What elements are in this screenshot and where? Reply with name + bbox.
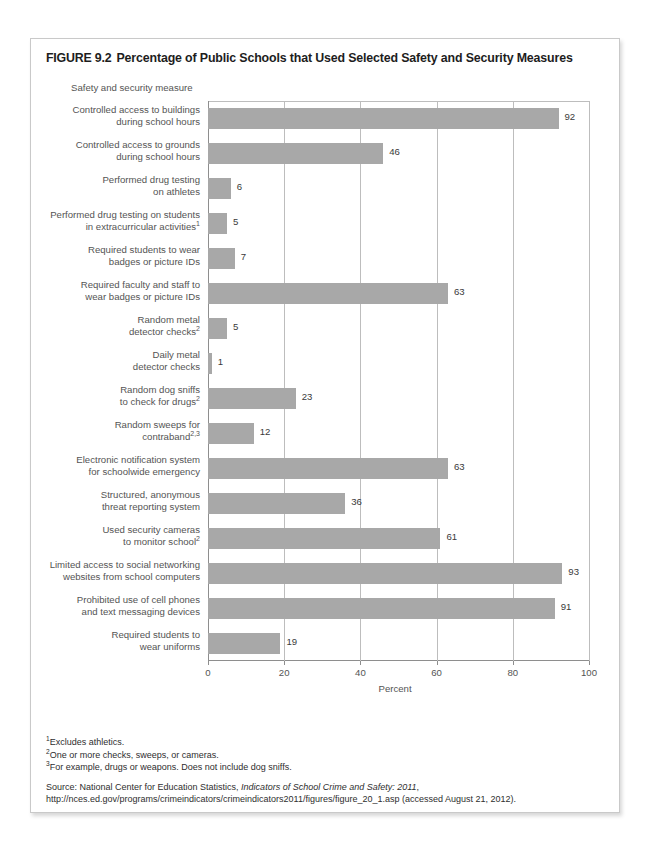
- bar: [208, 213, 227, 234]
- x-tick-label-20: 20: [279, 667, 290, 678]
- bar-value-label: 12: [260, 426, 271, 437]
- category-label-line2-text: badges or picture IDs: [109, 256, 200, 267]
- category-label-line2: to monitor school2: [0, 536, 200, 548]
- category-label-line2-text: for schoolwide emergency: [89, 466, 200, 477]
- chart-row: Required students to wearbadges or pictu…: [208, 241, 589, 276]
- bar-value-label: 23: [302, 391, 313, 402]
- category-label: Electronic notification systemfor school…: [0, 454, 200, 477]
- bar-value-label: 5: [233, 216, 238, 227]
- category-label: Used security camerasto monitor school2: [0, 524, 200, 547]
- x-tick-60: [437, 661, 438, 665]
- category-label-line2: for schoolwide emergency: [0, 466, 200, 478]
- bar: [208, 633, 280, 654]
- footnotes-block: 1Excludes athletics.2One or more checks,…: [46, 736, 606, 806]
- bar-value-label: 92: [565, 111, 576, 122]
- category-label-line2: websites from school computers: [0, 571, 200, 583]
- x-tick-label-40: 40: [355, 667, 366, 678]
- bar: [208, 388, 296, 409]
- chart-row: Required faculty and staff towear badges…: [208, 276, 589, 311]
- category-label-line2: detector checks: [0, 361, 200, 373]
- source-note: Source: National Center for Education St…: [46, 781, 606, 806]
- category-label-line1: Required faculty and staff to: [81, 279, 200, 290]
- footnote-marker: 2,3: [190, 429, 200, 436]
- category-label-line2-text: during school hours: [116, 116, 200, 127]
- bar-value-label: 91: [561, 601, 572, 612]
- chart-row: Controlled access to groundsduring schoo…: [208, 136, 589, 171]
- bar-value-label: 36: [351, 496, 362, 507]
- category-label: Limited access to social networkingwebsi…: [0, 559, 200, 582]
- footnote-text: Excludes athletics.: [50, 737, 125, 747]
- category-label-line1: Electronic notification system: [76, 454, 200, 465]
- category-label-line2-text: detector checks: [129, 326, 196, 337]
- bar-value-label: 7: [241, 251, 246, 262]
- category-label-line2: wear badges or picture IDs: [0, 291, 200, 303]
- category-label-line1: Required students to wear: [88, 244, 200, 255]
- category-label: Required students to wearbadges or pictu…: [0, 244, 200, 267]
- footnote-marker: 1: [196, 219, 200, 226]
- bar: [208, 178, 231, 199]
- bar: [208, 423, 254, 444]
- chart-row: Random sweeps forcontraband2,312: [208, 416, 589, 451]
- category-label: Daily metaldetector checks: [0, 349, 200, 372]
- bar: [208, 318, 227, 339]
- bar-value-label: 63: [454, 286, 465, 297]
- category-label-line2-text: during school hours: [116, 151, 200, 162]
- category-label-line2-text: wear uniforms: [140, 641, 200, 652]
- category-label-line2-text: to monitor school: [123, 536, 196, 547]
- bar-value-label: 63: [454, 461, 465, 472]
- chart-row: Prohibited use of cell phonesand text me…: [208, 591, 589, 626]
- bar-value-label: 93: [568, 566, 579, 577]
- category-label-line2: on athletes: [0, 186, 200, 198]
- bar: [208, 528, 440, 549]
- category-label-line2: contraband2,3: [0, 431, 200, 443]
- category-label-line1: Controlled access to grounds: [76, 139, 200, 150]
- bar: [208, 493, 345, 514]
- gridline-100: [589, 101, 590, 661]
- category-label: Structured, anonymousthreat reporting sy…: [0, 489, 200, 512]
- category-label-line1: Random sweeps for: [115, 419, 200, 430]
- category-label-line1: Daily metal: [153, 349, 200, 360]
- x-tick-80: [513, 661, 514, 665]
- x-tick-0: [208, 661, 209, 665]
- bar: [208, 598, 555, 619]
- category-label: Performed drug testing on studentsin ext…: [0, 209, 200, 232]
- category-label: Controlled access to groundsduring schoo…: [0, 139, 200, 162]
- source-italic-title: Indicators of School Crime and Safety: 2…: [241, 782, 416, 792]
- category-label-line1: Performed drug testing: [102, 174, 200, 185]
- x-tick-label-60: 60: [431, 667, 442, 678]
- x-axis-label: Percent: [379, 683, 412, 694]
- category-label-line1: Required students to: [111, 629, 200, 640]
- category-label-line2: detector checks2: [0, 326, 200, 338]
- category-label: Prohibited use of cell phonesand text me…: [0, 594, 200, 617]
- bar-value-label: 46: [389, 146, 400, 157]
- category-label-line2-text: threat reporting system: [102, 501, 200, 512]
- footnote-marker: 2: [196, 394, 200, 401]
- x-tick-40: [360, 661, 361, 665]
- bar-value-label: 1: [218, 356, 223, 367]
- footnote-text: For example, drugs or weapons. Does not …: [50, 762, 292, 772]
- category-label: Random sweeps forcontraband2,3: [0, 419, 200, 442]
- category-label-line1: Random dog sniffs: [120, 384, 200, 395]
- footnote-marker: 2: [196, 324, 200, 331]
- footnote: 1Excludes athletics.: [46, 736, 606, 749]
- category-label-line1: Structured, anonymous: [101, 489, 200, 500]
- chart-row: Daily metaldetector checks1: [208, 346, 589, 381]
- category-label-line2: badges or picture IDs: [0, 256, 200, 268]
- category-label-line2: in extracurricular activities1: [0, 221, 200, 233]
- category-label-line2: wear uniforms: [0, 641, 200, 653]
- category-label: Random dog sniffsto check for drugs2: [0, 384, 200, 407]
- bar: [208, 458, 448, 479]
- category-label: Required students towear uniforms: [0, 629, 200, 652]
- bar-chart: 020406080100Controlled access to buildin…: [31, 39, 621, 814]
- category-label-line2-text: and text messaging devices: [82, 606, 200, 617]
- category-label-line2: threat reporting system: [0, 501, 200, 513]
- chart-row: Required students towear uniforms19: [208, 626, 589, 661]
- category-label-line2-text: detector checks: [133, 361, 200, 372]
- chart-row: Performed drug testing on studentsin ext…: [208, 206, 589, 241]
- category-label-line1: Random metal: [138, 314, 200, 325]
- bar: [208, 353, 212, 374]
- bar-value-label: 19: [286, 636, 297, 647]
- category-label-line2: and text messaging devices: [0, 606, 200, 618]
- plot-area: 020406080100Controlled access to buildin…: [208, 101, 589, 661]
- source-prefix: Source: National Center for Education St…: [46, 782, 241, 792]
